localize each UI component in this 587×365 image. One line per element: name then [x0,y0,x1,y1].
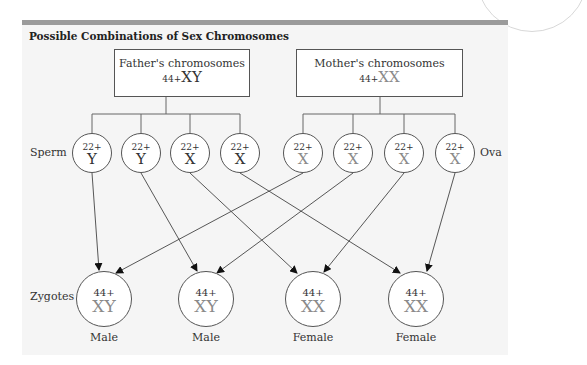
sperm-cell: 22+X [170,133,210,173]
zygote-cell: 44+XX [388,271,444,327]
father-sex-chromosomes: XY [181,68,202,86]
arrow-ova1-zygote1 [116,173,303,273]
zygote-sex-label: Male [176,331,236,344]
zygote-cell: 44+XY [76,271,132,327]
sperm-sex-chromosome: X [221,152,259,167]
zygote-sex-chromosomes: XY [77,298,131,315]
zygote-sex-chromosomes: XX [286,298,340,315]
father-box: Father's chromosomes 44+XY [114,49,250,97]
zygote-sex-chromosomes: XX [389,298,443,315]
ovum-cell: 22+X [283,133,323,173]
ovum-sex-chromosome: X [385,152,423,167]
arrow-ova4-zygote4 [427,173,455,271]
sperm-sex-chromosome: X [171,152,209,167]
mother-sex-chromosomes: XX [378,68,399,86]
zygotes-row-label: Zygotes [30,290,74,303]
ovum-cell: 22+X [333,133,373,173]
zygote-cell: 44+XY [178,271,234,327]
zygote-sex-label: Female [283,331,343,344]
sperm-sex-chromosome: Y [73,152,111,167]
arrow-sperm4-zygote4 [240,173,400,273]
sperm-row-label: Sperm [30,146,67,159]
ovum-cell: 22+X [384,133,424,173]
zygote-sex-label: Male [74,331,134,344]
ovum-cell: 22+X [435,133,475,173]
sperm-cell: 22+Y [121,133,161,173]
mother-autosomes: 44+ [359,74,378,84]
zygote-cell: 44+XX [285,271,341,327]
arrow-sperm1-zygote1 [92,173,99,270]
sperm-sex-chromosome: Y [122,152,160,167]
ovum-sex-chromosome: X [334,152,372,167]
sperm-cell: 22+X [220,133,260,173]
ovum-sex-chromosome: X [284,152,322,167]
arrow-sperm2-zygote2 [141,173,197,271]
mother-box: Mother's chromosomes 44+XX [296,49,463,97]
arrow-ova3-zygote3 [324,173,404,272]
arrow-ova2-zygote2 [217,173,353,273]
arrow-sperm3-zygote3 [190,173,297,273]
sperm-cell: 22+Y [72,133,112,173]
father-autosomes: 44+ [162,74,181,84]
zygote-sex-chromosomes: XY [179,298,233,315]
ova-row-label: Ova [480,146,502,159]
ovum-sex-chromosome: X [436,152,474,167]
zygote-sex-label: Female [386,331,446,344]
